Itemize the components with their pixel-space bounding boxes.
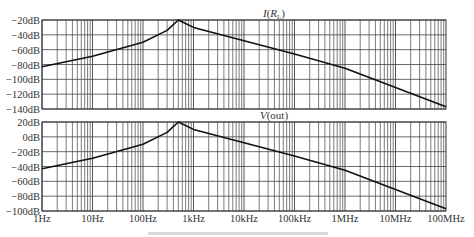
y-tick-label: −80dB <box>11 191 40 202</box>
y-tick-label: −100dB <box>6 74 40 85</box>
x-tick-label: 1MHz <box>332 213 359 224</box>
plot-title: I(RL) <box>262 7 285 21</box>
bottom-scrollbar-strip <box>148 232 328 235</box>
plot-vout: 20dB0dB−20dB−40dB−60dB−80dB−100dBV(out)1… <box>6 109 465 224</box>
y-tick-label: −40dB <box>11 30 40 41</box>
y-tick-label: −20dB <box>11 15 40 26</box>
x-tick-label: 1Hz <box>33 213 51 224</box>
x-tick-label: 10MHz <box>379 213 411 224</box>
y-tick-label: −40dB <box>11 162 40 173</box>
bode-chart: −20dB−40dB−60dB−80dB−100dB−120dB−140dBI(… <box>0 0 474 237</box>
y-tick-label: −60dB <box>11 176 40 187</box>
y-tick-label: 20dB <box>17 117 40 128</box>
y-tick-label: 0dB <box>22 132 40 143</box>
y-tick-label: −140dB <box>6 104 40 115</box>
y-tick-label: −120dB <box>6 89 40 100</box>
y-tick-label: −80dB <box>11 60 40 71</box>
plot-current-rl: −20dB−40dB−60dB−80dB−100dB−120dB−140dBI(… <box>6 7 446 115</box>
x-tick-label: 10kHz <box>230 213 258 224</box>
x-tick-label: 10Hz <box>81 213 104 224</box>
x-tick-label: 100Hz <box>129 213 157 224</box>
x-tick-label: 1kHz <box>182 213 205 224</box>
x-tick-label: 100kHz <box>278 213 312 224</box>
y-tick-label: −20dB <box>11 147 40 158</box>
y-tick-label: −60dB <box>11 45 40 56</box>
x-tick-label: 100MHz <box>427 213 465 224</box>
plot-title: V(out) <box>260 109 288 122</box>
